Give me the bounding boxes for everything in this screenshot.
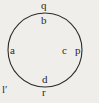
label-q: q — [41, 0, 47, 11]
label-a: a — [10, 45, 15, 56]
circle-diagram: q b a c p d r l′ — [0, 0, 99, 103]
label-c: c — [62, 45, 67, 56]
label-l-prime: l′ — [2, 84, 7, 95]
label-b: b — [41, 15, 47, 26]
label-r: r — [42, 87, 46, 98]
label-d: d — [42, 74, 48, 85]
label-p: p — [75, 45, 81, 56]
